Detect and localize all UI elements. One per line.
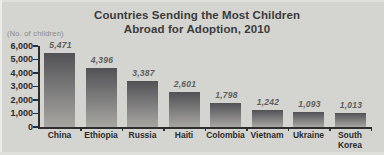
y-axis-line	[38, 46, 40, 129]
y-tick-label: 0	[1, 123, 33, 132]
bar-colombia	[210, 103, 241, 127]
y-tick-label: 5,000	[1, 55, 33, 64]
bar-south-korea	[335, 113, 366, 127]
y-tick-label: 1,000	[1, 109, 33, 118]
bar-value-label: 1,093	[298, 99, 320, 110]
bar-russia	[127, 81, 158, 127]
bar-china	[44, 53, 75, 127]
bar-value-label: 5,471	[49, 40, 71, 51]
y-tick-mark	[33, 99, 38, 100]
adoption-bar-chart-panel: Countries Sending the Most Children Abro…	[0, 0, 384, 155]
bar-value-label: 1,798	[215, 90, 237, 101]
bar-ukraine	[293, 112, 324, 127]
bar-ethiopia	[86, 68, 117, 127]
y-tick-mark	[33, 126, 38, 127]
bar-value-label: 1,013	[340, 100, 362, 111]
y-tick-mark	[33, 86, 38, 87]
y-tick-label: 6,000	[1, 42, 33, 51]
bar-vietnam	[252, 110, 283, 127]
y-tick-label: 4,000	[1, 69, 33, 78]
plot-area: 01,0002,0003,0004,0005,0006,0005,471Chin…	[0, 0, 384, 155]
bar-value-label: 4,396	[91, 55, 113, 66]
bar-value-label: 2,601	[174, 79, 196, 90]
bar-value-label: 3,387	[132, 68, 154, 79]
y-tick-mark	[33, 59, 38, 60]
y-tick-mark	[33, 113, 38, 114]
y-tick-label: 2,000	[1, 96, 33, 105]
y-tick-mark	[33, 72, 38, 73]
bar-value-label: 1,242	[257, 97, 279, 108]
y-tick-mark	[33, 45, 38, 46]
bar-haiti	[169, 92, 200, 127]
y-tick-label: 3,000	[1, 82, 33, 91]
x-category-label: South Korea	[326, 131, 374, 150]
x-tick-mark	[371, 127, 372, 131]
